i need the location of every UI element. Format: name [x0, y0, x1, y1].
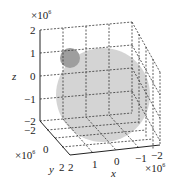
z-ticks: 2 1 0 −1 −2	[24, 24, 36, 127]
svg-text:0: 0	[114, 155, 120, 167]
svg-text:−1: −1	[24, 93, 36, 105]
x-axis-label: x	[110, 167, 116, 179]
svg-text:2: 2	[68, 161, 74, 173]
y-multiplier: ×106	[15, 149, 35, 161]
svg-text:0: 0	[30, 70, 36, 82]
svg-text:−2: −2	[24, 124, 36, 136]
svg-text:2: 2	[30, 24, 36, 36]
svg-text:2: 2	[59, 161, 65, 173]
x-multiplier: ×106	[145, 162, 165, 174]
3d-plot: 2 1 0 −1 −2 ×106 z −2 0 2 ×106 y 2 1 0 −…	[0, 0, 175, 191]
svg-text:1: 1	[30, 47, 36, 59]
svg-text:−2: −2	[151, 149, 163, 161]
y-axis-label: y	[48, 163, 54, 175]
svg-text:1: 1	[92, 158, 98, 170]
z-axis-label: z	[11, 70, 17, 82]
svg-text:0: 0	[43, 143, 49, 155]
z-multiplier: ×106	[31, 9, 51, 21]
